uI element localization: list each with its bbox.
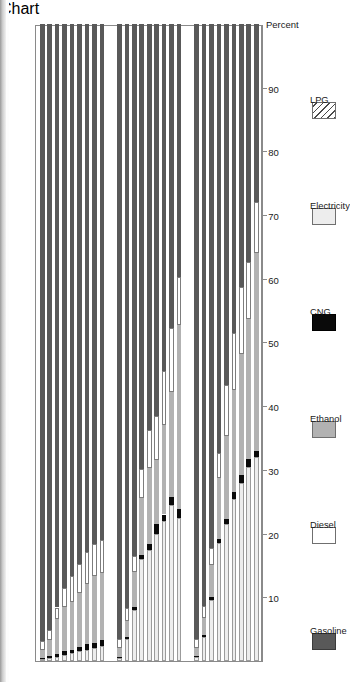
bar-segment-diesel <box>239 287 244 354</box>
bar-segment-gasoline <box>139 24 144 469</box>
bar-segment-electricity <box>254 457 259 661</box>
bar-segment-gasoline <box>125 24 130 608</box>
legend-label-gasoline: Gasoline <box>310 626 347 636</box>
bar-segment-ethanol <box>125 621 130 637</box>
bar-segment-electricity <box>62 655 67 661</box>
bar-segment-ethanol <box>177 325 182 510</box>
bar-segment-ethanol <box>70 602 75 650</box>
bar-segment-gasoline <box>62 24 67 588</box>
bar-segment-diesel <box>232 333 237 390</box>
chart-legend: GasolineDieselEthanolCNGElectricityLPG <box>300 25 344 662</box>
bar-row <box>169 26 174 661</box>
bar-segment-gasoline <box>224 24 229 385</box>
bar-row <box>85 26 90 661</box>
bar-segment-diesel <box>147 430 152 468</box>
bar-segment-cng <box>232 492 237 498</box>
bar-segment-gasoline <box>55 24 60 607</box>
bar-segment-ethanol <box>224 436 229 519</box>
bar-segment-diesel <box>139 469 144 498</box>
bar-segment-cng <box>62 651 67 654</box>
bar-segment-ethanol <box>169 392 174 497</box>
bar-segment-cng <box>239 475 244 483</box>
legend-item-cng: CNG <box>300 225 340 331</box>
bar-segment-electricity <box>117 658 122 661</box>
bar-segment-ethanol <box>139 498 144 555</box>
bar-segment-cng <box>117 657 122 658</box>
bar-segment-ethanol <box>62 607 67 652</box>
bar-segment-ethanol <box>147 468 152 544</box>
bar-segment-cng <box>92 643 97 649</box>
axis-tick-label-30: 30 <box>254 465 294 476</box>
bar-row <box>154 26 159 661</box>
bar-segment-cng <box>217 539 222 543</box>
bar-segment-cng <box>194 656 199 657</box>
bar-segment-gasoline <box>232 24 237 333</box>
bar-segment-cng <box>246 459 251 467</box>
bar-segment-ethanol <box>117 648 122 656</box>
bar-segment-diesel <box>132 556 137 572</box>
bar-segment-diesel <box>209 548 214 566</box>
axis-tick-label-90: 90 <box>254 83 294 94</box>
bar-segment-cng <box>55 654 60 657</box>
axis-tick-label-10: 10 <box>254 593 294 604</box>
bar-segment-electricity <box>40 659 45 661</box>
bar-segment-gasoline <box>177 24 182 277</box>
bar-segment-ethanol <box>100 573 105 640</box>
bar-segment-cng <box>224 519 229 524</box>
bar-segment-ethanol <box>47 640 52 656</box>
bar-segment-cng <box>162 515 167 521</box>
bar-segment-cng <box>169 497 174 505</box>
bar-segment-cng <box>154 524 159 534</box>
bar-segment-gasoline <box>254 24 259 202</box>
bar-segment-ethanol <box>77 593 82 647</box>
bar-segment-ethanol <box>132 572 137 607</box>
bar-segment-electricity <box>177 518 182 661</box>
bar-segment-electricity <box>162 521 167 661</box>
bar-segment-ethanol <box>239 354 244 475</box>
legend-item-gasoline: Gasoline <box>300 544 340 650</box>
bar-segment-diesel <box>217 453 222 478</box>
bar-segment-diesel <box>100 540 105 573</box>
bar-segment-ethanol <box>40 650 45 658</box>
bar-segment-diesel <box>224 385 229 436</box>
bar-segment-gasoline <box>100 24 105 540</box>
bar-segment-electricity <box>194 657 199 661</box>
bar-row <box>92 26 97 661</box>
bar-segment-gasoline <box>132 24 137 556</box>
bar-row <box>224 26 229 661</box>
bar-segment-gasoline <box>85 24 90 552</box>
bar-segment-ethanol <box>246 319 251 459</box>
bar-segment-gasoline <box>217 24 222 453</box>
bar-segment-ethanol <box>154 460 159 524</box>
bar-segment-gasoline <box>147 24 152 430</box>
bar-row <box>62 26 67 661</box>
bar-row <box>239 26 244 661</box>
bar-segment-diesel <box>154 416 159 461</box>
bar-segment-cng <box>209 597 214 600</box>
bar-segment-ethanol <box>92 576 97 643</box>
bar-segment-ethanol <box>202 618 207 635</box>
bar-segment-electricity <box>246 467 251 661</box>
bar-segment-ethanol <box>232 390 237 492</box>
bar-segment-diesel <box>177 277 182 325</box>
bar-segment-diesel <box>246 262 251 319</box>
bar-segment-diesel <box>70 576 75 601</box>
bar-segment-gasoline <box>162 24 167 371</box>
bar-segment-cng <box>100 640 105 646</box>
bar-row <box>246 26 251 661</box>
bar-segment-electricity <box>209 601 214 662</box>
bar-segment-diesel <box>40 641 45 651</box>
bar-segment-gasoline <box>117 24 122 639</box>
bar-segment-diesel <box>47 630 52 640</box>
bar-segment-electricity <box>202 637 207 661</box>
bar-segment-diesel <box>117 639 122 649</box>
bar-segment-cng <box>70 650 75 654</box>
bar-row <box>232 26 237 661</box>
bar-segment-cng <box>47 656 52 658</box>
bar-segment-diesel <box>55 608 60 619</box>
bar-segment-electricity <box>224 524 229 661</box>
bar-segment-electricity <box>47 658 52 661</box>
bar-segment-gasoline <box>40 24 45 641</box>
bar-segment-ethanol <box>85 584 90 645</box>
